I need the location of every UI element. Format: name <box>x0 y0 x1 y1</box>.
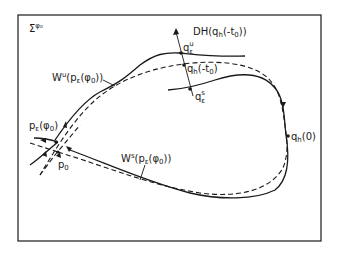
label-unstable-manifold: Wu(pε(φ0)) <box>52 71 103 85</box>
section-label: Σφ₀ <box>29 22 43 34</box>
homoclinic-orbit-diagram: Σφ₀ DH(qh(-t0)) qεu qh(-t0) qεs Wu(pε(φ0… <box>0 0 338 257</box>
unstable-manifold-return <box>70 75 288 198</box>
leader-line-unstable <box>103 80 115 86</box>
label-DH: DH(qh(-t0)) <box>193 26 247 39</box>
flow-arrow-icon <box>63 121 67 128</box>
label-q-eps-s: qεs <box>195 89 205 105</box>
label-stable-manifold: Ws(pε(φ0)) <box>121 152 171 166</box>
label-q-h-minus-t0: qh(-t0) <box>187 63 218 76</box>
label-p-eps-phi0: pε(φ0) <box>29 120 58 133</box>
point-q-h-0 <box>286 134 290 138</box>
label-q-h-0: qh(0) <box>291 131 316 144</box>
point-p0 <box>57 151 60 154</box>
label-p0: p0 <box>58 159 69 172</box>
flow-arrow-icon <box>280 102 286 108</box>
point-p-eps <box>54 140 58 144</box>
point-q-eps-s <box>188 87 192 91</box>
point-q-h-minus-t0 <box>182 63 186 67</box>
normal-arrow-icon <box>173 28 179 35</box>
